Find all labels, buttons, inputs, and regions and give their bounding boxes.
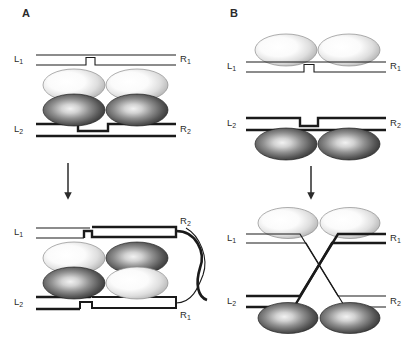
subunit-light-lower-right — [106, 267, 168, 299]
subunit-pair-b-top-light — [255, 34, 380, 66]
subunit-dark-left — [258, 303, 318, 334]
crossover-loop-strands — [176, 228, 207, 303]
crossing-strand-thick — [176, 231, 207, 300]
duplex-l2-r2-thick-b — [246, 118, 386, 130]
label-r1-a-top: R1 — [180, 54, 191, 64]
label-l2-a-bottom: L2 — [14, 297, 23, 307]
subunit-dark-right — [318, 128, 380, 160]
nick-notch-top-b — [246, 65, 386, 73]
junction-strand-thin-b — [246, 243, 386, 307]
subunit-cluster-a-bottom — [43, 242, 168, 299]
label-r2-a-bottom: R2 — [180, 216, 191, 226]
holliday-junction-crossing — [246, 234, 386, 307]
recombinant-duplex-l1-r2 — [36, 227, 176, 238]
panel-a-bottom-stage — [36, 227, 207, 309]
duplex-l1-r1-thin — [36, 55, 176, 65]
label-r2-a-top: R2 — [180, 124, 191, 134]
label-r1-b-top: R1 — [390, 61, 401, 71]
nick-notch-bottom — [36, 124, 176, 131]
label-l1-b-top: L1 — [227, 61, 236, 71]
label-r1-a-bottom: R1 — [180, 310, 191, 320]
panel-a-top-stage — [36, 55, 176, 196]
subunit-dark-lower-left — [43, 267, 105, 299]
label-r1-b-bottom: R1 — [390, 233, 401, 243]
recombinant-segment-top — [84, 227, 176, 238]
nick-notch-top — [36, 58, 176, 66]
label-l2-b-top: L2 — [227, 118, 236, 128]
label-l1-a-bottom: L1 — [14, 227, 23, 237]
junction-strand-thick-b — [246, 243, 386, 307]
label-l2-a-top: L2 — [14, 124, 23, 134]
label-r2-b-top: R2 — [390, 118, 401, 128]
subunit-pair-b-bottom-dark — [255, 128, 380, 160]
subunit-light-left — [255, 34, 317, 66]
subunit-dark-lower-left — [43, 94, 105, 126]
subunit-dark-right — [320, 303, 380, 334]
label-l2-b-bottom: L2 — [227, 296, 236, 306]
diagram-svg — [0, 0, 414, 340]
duplex-l2-r2-thick — [36, 124, 176, 136]
subunit-light-right — [318, 34, 380, 66]
panel-b-bottom-stage — [246, 208, 386, 334]
label-r2-b-bottom: R2 — [390, 296, 401, 306]
label-l1-a-top: L1 — [14, 54, 23, 64]
recombinant-segment-bottom — [80, 297, 176, 309]
panel-b-top-stage — [246, 34, 386, 196]
subunit-dark-left — [255, 128, 317, 160]
subunit-dark-lower-right — [106, 94, 168, 126]
figure-canvas: A B — [0, 0, 414, 340]
subunit-cluster-a-top — [43, 69, 168, 126]
nick-notch-bottom-b — [246, 118, 386, 126]
label-l1-b-bottom: L1 — [227, 233, 236, 243]
recombinant-duplex-l2-r1 — [36, 297, 176, 309]
subunit-pair-b2-bottom-dark — [258, 303, 380, 334]
